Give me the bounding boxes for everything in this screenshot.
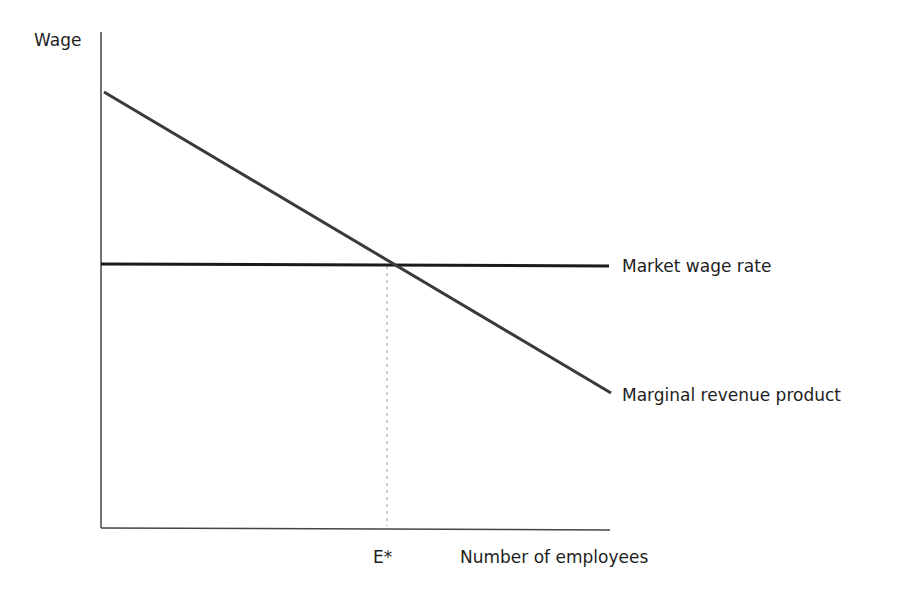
x-axis xyxy=(101,528,610,530)
market-wage-label: Market wage rate xyxy=(622,256,771,276)
mrp-label: Marginal revenue product xyxy=(622,385,841,405)
x-axis-label: Number of employees xyxy=(460,547,648,567)
chart-canvas xyxy=(0,0,924,589)
mrp-line xyxy=(104,92,611,393)
market-wage-line xyxy=(101,264,609,266)
e-star-tick-label: E* xyxy=(373,547,392,567)
y-axis-label: Wage xyxy=(34,30,81,50)
